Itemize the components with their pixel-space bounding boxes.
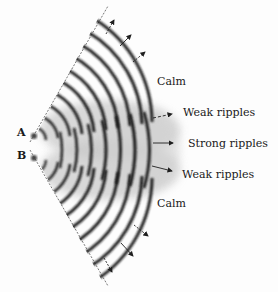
source-b-label: B — [17, 150, 26, 161]
arrows-top — [106, 20, 145, 62]
source-b-dot — [31, 155, 37, 161]
weak-ripples-bottom-label: Weak ripples — [182, 169, 254, 180]
calm-bottom-label: Calm — [157, 198, 186, 209]
strong-ripples-label: Strong ripples — [188, 138, 268, 149]
calm-top-label: Calm — [157, 76, 186, 87]
source-a-dot — [31, 133, 37, 139]
source-a-label: A — [17, 127, 26, 138]
interference-diagram: A B Calm Weak ripples Strong ripples Wea… — [0, 0, 278, 292]
weak-ripples-top-label: Weak ripples — [183, 107, 255, 118]
